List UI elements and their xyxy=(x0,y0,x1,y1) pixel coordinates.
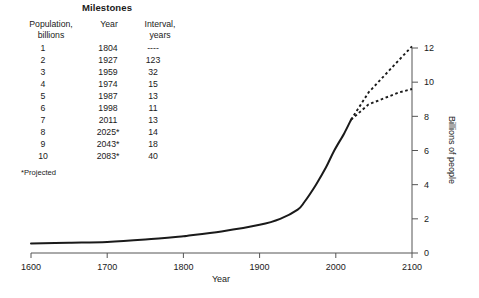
y-axis-tick-label: 6 xyxy=(424,146,429,156)
population-growth-figure: Milestones Population, billions Year Int… xyxy=(0,0,479,298)
y-axis-tick-label: 8 xyxy=(424,112,429,122)
x-axis-tick-labels: 160017001800190020002100 xyxy=(21,262,422,272)
x-axis-tick-label: 2000 xyxy=(326,262,346,272)
x-axis-tick-label: 2100 xyxy=(402,262,422,272)
x-axis-tick-label: 1800 xyxy=(173,262,193,272)
chart-series-group xyxy=(31,46,412,243)
y-axis-tick-label: 0 xyxy=(424,248,429,258)
x-axis-title: Year xyxy=(212,274,230,284)
y-axis-ticks xyxy=(412,48,418,253)
y-axis-tick-label: 4 xyxy=(424,180,429,190)
population-line-chart: 160017001800190020002100 024681012 Year … xyxy=(0,0,479,298)
x-axis-tick-label: 1900 xyxy=(250,262,270,272)
x-axis-ticks xyxy=(31,253,412,258)
y-axis-title: Billions of people xyxy=(447,116,457,184)
x-axis-tick-label: 1600 xyxy=(21,262,41,272)
y-axis-tick-label: 2 xyxy=(424,214,429,224)
y-axis-tick-label: 10 xyxy=(424,77,434,87)
y-axis-tick-label: 12 xyxy=(424,43,434,53)
projection-line xyxy=(351,46,412,119)
population-line xyxy=(31,120,351,244)
x-axis-tick-label: 1700 xyxy=(97,262,117,272)
y-axis-tick-labels: 024681012 xyxy=(424,43,434,258)
